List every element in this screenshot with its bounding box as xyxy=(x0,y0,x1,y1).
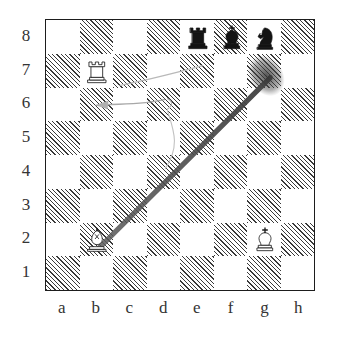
file-label-a: a xyxy=(52,298,72,318)
file-label-b: b xyxy=(86,298,106,318)
file-label-e: e xyxy=(187,298,207,318)
chess-diagram: 87654321 xyxy=(0,0,340,341)
file-label-h: h xyxy=(288,298,308,318)
file-label-d: d xyxy=(153,298,173,318)
file-label-g: g xyxy=(254,298,274,318)
file-labels: abcdefgh xyxy=(0,0,340,341)
file-label-c: c xyxy=(119,298,139,318)
file-label-f: f xyxy=(221,298,241,318)
